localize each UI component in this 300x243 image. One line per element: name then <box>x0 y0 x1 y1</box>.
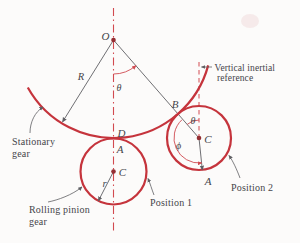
stationary-gear-leader-arrow <box>30 107 43 133</box>
theta-arc-at-O <box>114 66 136 74</box>
point-C2-dot <box>197 136 202 141</box>
radius-R-label: R <box>77 71 85 82</box>
line-O-to-C2 <box>114 40 200 138</box>
gear-diagram: O B C C D A A R r θ θ ϕ Stationary gear … <box>0 0 300 243</box>
position1-leader-arrow <box>148 179 154 196</box>
point-A1-label: A <box>116 143 124 155</box>
position2-leader-arrow <box>229 156 240 179</box>
point-C2-label: C <box>204 133 212 145</box>
radius-r-label: r <box>102 178 107 189</box>
line-C2-to-A2 <box>199 138 202 170</box>
point-C1-label: C <box>119 166 127 178</box>
theta-position2-label: θ <box>191 115 196 126</box>
theta-main-label: θ <box>117 82 122 93</box>
stationary-gear-label-line2: gear <box>12 148 30 159</box>
scan-artifact <box>241 14 259 28</box>
rolling-pinion-leader-arrow <box>48 187 82 202</box>
radius-R-line <box>63 40 114 122</box>
figure-canvas: O B C C D A A R r θ θ ϕ Stationary gear … <box>0 0 300 243</box>
position1-label: Position 1 <box>150 197 192 208</box>
position2-label: Position 2 <box>231 182 273 193</box>
phi-label: ϕ <box>176 140 181 151</box>
point-D-label: D <box>117 127 126 139</box>
vertical-reference-label-line2: reference <box>217 73 253 83</box>
vertical-reference-label-line1: Vertical inertial <box>215 63 276 73</box>
point-O-label: O <box>102 30 110 42</box>
rolling-pinion-label-line1: Rolling pinion <box>29 204 90 215</box>
point-C1-dot <box>111 169 116 174</box>
rolling-pinion-label-line2: gear <box>29 216 47 227</box>
point-B-label: B <box>172 98 179 110</box>
stationary-gear-label-line1: Stationary <box>12 136 55 147</box>
point-O-dot <box>111 38 116 43</box>
point-A2-label: A <box>204 175 212 187</box>
